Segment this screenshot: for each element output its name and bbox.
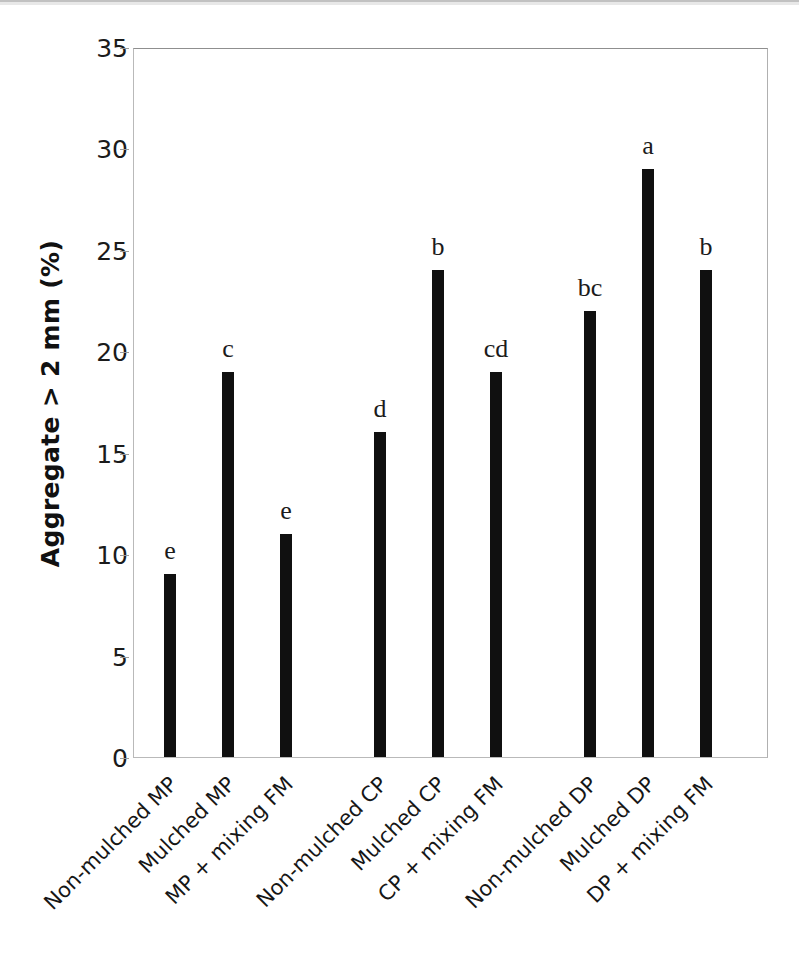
bar-significance-letter: a — [618, 131, 678, 161]
bar[interactable] — [280, 534, 292, 757]
bar-significance-letter: c — [198, 334, 258, 364]
bar[interactable] — [164, 574, 176, 757]
y-axis-tick-mark — [120, 149, 129, 150]
bar[interactable] — [584, 311, 596, 757]
bar[interactable] — [490, 372, 502, 757]
bar-significance-letter: b — [676, 232, 736, 262]
bar-series: ecedbcdbcab — [134, 49, 767, 757]
y-axis-tick-mark — [120, 352, 129, 353]
bar-significance-letter: bc — [560, 273, 620, 303]
bar-significance-letter: b — [408, 232, 468, 262]
y-axis-tick-mark — [120, 555, 129, 556]
bar[interactable] — [374, 432, 386, 757]
y-axis-tick-mark — [120, 454, 129, 455]
figure-canvas: Aggregate > 2 mm (%) 05101520253035 eced… — [0, 0, 799, 967]
bar[interactable] — [642, 169, 654, 757]
bar[interactable] — [700, 270, 712, 757]
y-axis-tick-mark — [120, 758, 129, 759]
bar-significance-letter: d — [350, 394, 410, 424]
plot-area: ecedbcdbcab — [133, 48, 768, 758]
bar[interactable] — [432, 270, 444, 757]
bar-significance-letter: cd — [466, 334, 526, 364]
y-axis-tick-mark — [120, 657, 129, 658]
bar[interactable] — [222, 372, 234, 757]
y-axis-tick-mark — [120, 48, 129, 49]
bar-significance-letter: e — [256, 496, 316, 526]
bar-significance-letter: e — [140, 536, 200, 566]
y-axis-tick-mark — [120, 251, 129, 252]
